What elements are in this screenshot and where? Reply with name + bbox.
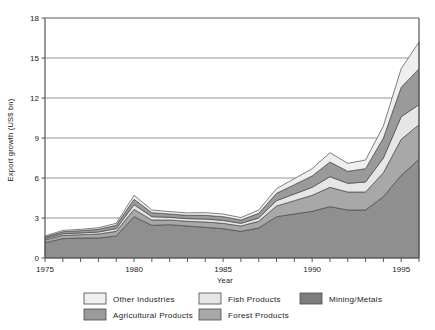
legend-item-mining-metals: Mining/Metals: [300, 293, 382, 304]
legend-swatch-fish-products: [199, 293, 221, 304]
y-tick-label-9: 9: [35, 134, 40, 143]
legend-swatch-other-industries: [84, 293, 106, 304]
legend-label-mining-metals: Mining/Metals: [329, 295, 382, 304]
y-tick-label-15: 15: [30, 54, 39, 63]
x-axis-title: Year: [217, 276, 233, 285]
legend-label-forest-products: Forest Products: [228, 311, 289, 320]
legend-label-agricultural-products: Agricultural Products: [113, 311, 193, 320]
legend-swatch-forest-products: [199, 309, 221, 320]
x-tick-label-1980: 1980: [125, 265, 143, 274]
legend-item-other-industries: Other Industries: [84, 293, 175, 304]
y-tick-label-3: 3: [35, 214, 40, 223]
x-tick-label-1995: 1995: [392, 265, 410, 274]
x-tick-label-1985: 1985: [214, 265, 232, 274]
x-tick-label-1975: 1975: [36, 265, 54, 274]
y-tick-label-18: 18: [30, 14, 39, 23]
legend-item-agricultural-products: Agricultural Products: [84, 309, 193, 320]
y-axis-title: Export growth (US$ bn): [6, 98, 15, 181]
legend-item-forest-products: Forest Products: [199, 309, 289, 320]
y-tick-label-12: 12: [30, 94, 39, 103]
legend-swatch-agricultural-products: [84, 309, 106, 320]
y-tick-label-0: 0: [35, 254, 40, 263]
legend-swatch-mining-metals: [300, 293, 322, 304]
legend-label-fish-products: Fish Products: [228, 295, 281, 304]
legend-label-other-industries: Other Industries: [113, 295, 175, 304]
x-tick-label-1990: 1990: [303, 265, 321, 274]
export-growth-stacked-area-chart: 036912151819751980198519901995 Other Ind…: [0, 0, 435, 330]
legend-item-fish-products: Fish Products: [199, 293, 281, 304]
y-tick-label-6: 6: [35, 174, 40, 183]
